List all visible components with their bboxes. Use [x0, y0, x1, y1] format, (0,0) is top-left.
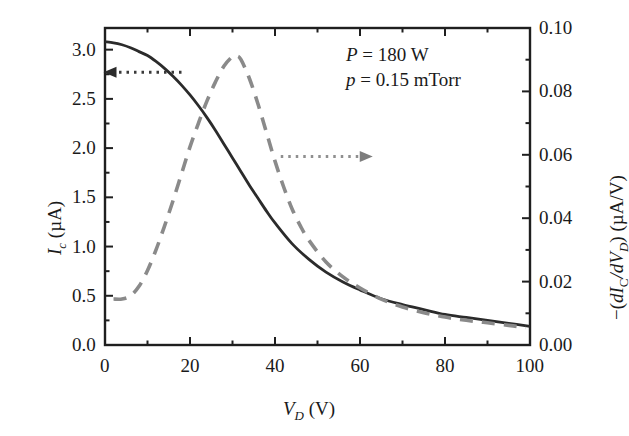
axes-group: [105, 28, 530, 345]
y-right-prefix: −(: [606, 303, 627, 320]
y-left-subscript: c: [54, 243, 69, 249]
y-left-unit: (µA): [44, 201, 65, 238]
series-derivative-dashed: [114, 55, 526, 327]
y-axis-right-tick-label: 0.04: [539, 207, 572, 229]
pressure-unit: mTorr: [414, 69, 461, 90]
x-axis-tick-label: 100: [516, 355, 545, 377]
y-axis-left-tick-label: 0.0: [72, 334, 96, 356]
y-axis-left-title: Ic (µA): [44, 201, 70, 255]
right-axis-arrow: [281, 151, 373, 162]
y-axis-left-tick-label: 1.5: [72, 186, 96, 208]
y-right-slash: /: [606, 273, 627, 278]
x-axis-tick-label: 60: [351, 355, 370, 377]
x-subscript: D: [295, 408, 304, 423]
y-axis-left-tick-label: 2.5: [72, 88, 96, 110]
x-axis-tick-label: 0: [100, 355, 110, 377]
y-right-suffix: ): [606, 236, 627, 242]
x-axis-title: VD (V): [283, 398, 335, 424]
y-axis-right-title: −(dIC/dVD) (µA/V): [606, 175, 629, 320]
y-right-unit: (µA/V): [606, 175, 627, 231]
power-annotation: P = 180 W: [346, 44, 429, 66]
x-symbol: V: [283, 398, 295, 419]
pressure-value: 0.15: [376, 69, 409, 90]
y-axis-left-tick-label: 0.5: [72, 285, 96, 307]
y-axis-left-tick-label: 3.0: [72, 39, 96, 61]
figure-panel: 0.00.51.01.52.02.53.0 0.000.020.040.060.…: [0, 0, 629, 436]
y-right-V-subscript: D: [616, 243, 629, 252]
power-symbol: P: [346, 44, 358, 65]
y-right-d2: d: [606, 264, 627, 274]
series-current-solid: [105, 42, 530, 327]
power-unit: W: [411, 44, 429, 65]
x-axis-tick-label: 20: [181, 355, 200, 377]
y-axis-right-tick-label: 0.10: [539, 17, 572, 39]
y-axis-right-tick-label: 0.00: [539, 334, 572, 356]
y-axis-right-tick-label: 0.02: [539, 271, 572, 293]
pressure-annotation: p = 0.15 mTorr: [346, 69, 461, 91]
x-unit: (V): [309, 398, 335, 419]
y-left-symbol: I: [44, 249, 65, 255]
x-axis-tick-label: 80: [436, 355, 455, 377]
y-right-I-subscript: C: [616, 278, 629, 287]
y-right-I: I: [606, 287, 627, 293]
x-axis-tick-label: 40: [266, 355, 285, 377]
y-right-d1: d: [606, 293, 627, 303]
y-axis-right-tick-label: 0.06: [539, 144, 572, 166]
y-axis-right-tick-label: 0.08: [539, 80, 572, 102]
pointer-arrows: [104, 67, 373, 162]
series-group: [105, 42, 530, 328]
y-right-V: V: [606, 252, 627, 264]
power-value: 180: [378, 44, 407, 65]
pressure-symbol: p: [346, 69, 356, 90]
y-axis-left-tick-label: 1.0: [72, 236, 96, 258]
y-axis-left-tick-label: 2.0: [72, 137, 96, 159]
